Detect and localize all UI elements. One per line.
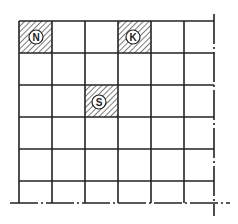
cell-label-s: S	[96, 97, 103, 108]
hatched-cell-n: N	[19, 21, 52, 53]
cell-label-n: N	[32, 32, 39, 43]
grid-diagram: N K S	[0, 0, 238, 224]
cell-label-k: K	[129, 32, 137, 43]
hatched-cell-s: S	[85, 85, 118, 117]
hatched-cell-k: K	[118, 21, 151, 53]
